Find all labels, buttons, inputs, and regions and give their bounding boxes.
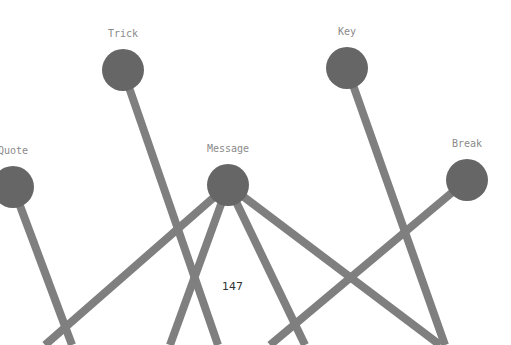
node-label: Break (452, 138, 482, 149)
node-label: Quote (0, 145, 28, 156)
node-circle (207, 164, 249, 206)
edge-message (228, 185, 305, 345)
node-trick: Trick (102, 28, 144, 91)
edge-quote (13, 187, 72, 345)
node-circle (102, 49, 144, 91)
edges-layer (13, 68, 467, 345)
node-key: Key (326, 26, 368, 89)
edge-message (228, 185, 440, 345)
page-number: 147 (222, 280, 243, 293)
node-circle (446, 159, 488, 201)
node-label: Message (207, 143, 249, 154)
node-break: Break (446, 138, 488, 201)
node-message: Message (207, 143, 249, 206)
network-diagram: TrickKeyQuoteMessageBreak (0, 0, 511, 345)
node-label: Trick (108, 28, 138, 39)
nodes-layer: TrickKeyQuoteMessageBreak (0, 26, 488, 208)
node-quote: Quote (0, 145, 34, 208)
node-label: Key (338, 26, 356, 37)
node-circle (326, 47, 368, 89)
node-circle (0, 166, 34, 208)
